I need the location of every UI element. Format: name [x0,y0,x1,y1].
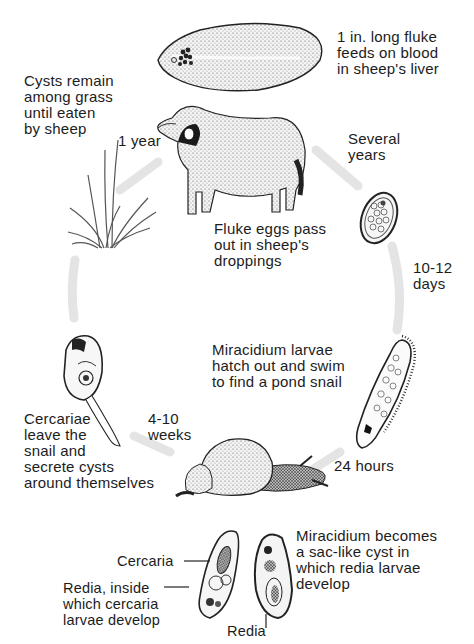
label-miracidium: Miracidium larvae hatch out and swim to … [212,342,345,390]
duration-24-hours: 24 hours [334,458,394,474]
duration-4-10-weeks: 4-10 weeks [148,411,192,443]
miracidium-illustration [357,336,415,448]
redia-illustration [255,534,292,618]
label-cysts-grass: Cysts remain among grass until eaten by … [24,73,114,137]
adult-fluke-illustration [158,23,322,90]
life-cycle-diagram: 1 in. long fluke feeds on blood in sheep… [0,0,474,644]
arrow-grass-to-sheep [120,162,158,190]
duration-10-12-days: 10-12 days [413,260,452,292]
callout-redia: Redia [227,623,266,639]
label-fluke-eggs: Fluke eggs pass out in sheep's droppings [214,221,326,269]
duration-1-year: 1 year [118,133,161,149]
arrow-cercariae-to-grass [72,260,75,318]
label-adult-fluke: 1 in. long fluke feeds on blood in sheep… [337,29,439,77]
fluke-egg-illustration [354,188,404,248]
snail-illustration [176,439,328,496]
label-cercariae: Cercariae leave the snail and secrete cy… [24,411,154,491]
duration-several-years: Several years [348,131,400,163]
callout-cercaria: Cercaria [117,553,173,569]
callout-redia-inside: Redia, inside which cercaria larvae deve… [63,580,160,628]
label-sac-cyst: Miracidium becomes a sac-like cyst in wh… [296,528,437,592]
redia-with-cercaria-illustration [199,531,238,618]
grass-illustration [68,140,156,248]
arrow-eggs-to-miracidium [392,246,400,330]
sheep-illustration [158,106,305,214]
